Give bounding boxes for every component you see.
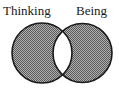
venn-diagram <box>0 0 119 89</box>
